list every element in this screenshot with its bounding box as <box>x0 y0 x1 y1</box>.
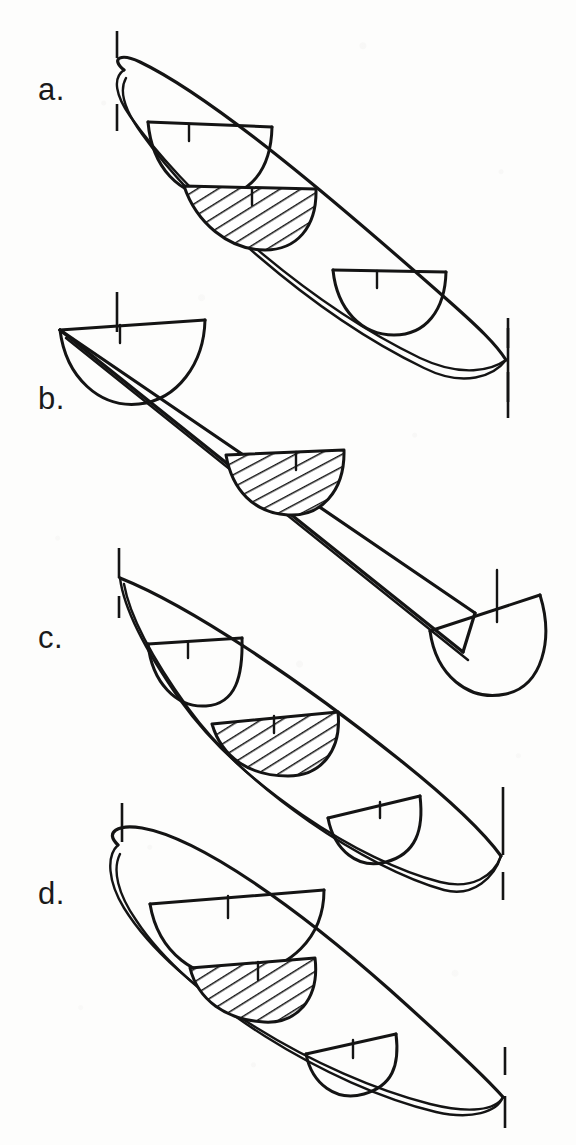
section-c-after-top <box>328 796 420 818</box>
panel-c-hull <box>119 548 503 900</box>
panel-label-c: c. <box>38 622 63 653</box>
cross-section-c-midship-hatched <box>212 712 338 776</box>
section-c-forward-top <box>148 638 242 644</box>
cross-section-b-stern <box>430 570 546 695</box>
cross-section-a-midship-hatched <box>184 186 316 250</box>
section-a-after-top <box>333 270 446 272</box>
cross-section-c-after <box>328 796 421 864</box>
panel-b-trough <box>60 292 546 695</box>
panel-label-d: d. <box>38 878 65 909</box>
section-d-after-top <box>306 1034 396 1054</box>
panel-label-b: b. <box>38 383 65 414</box>
section-a-forward-top <box>148 122 272 127</box>
hull-forms-diagram <box>0 0 576 1145</box>
cross-section-d-after <box>306 1034 397 1096</box>
panel-label-a: a. <box>38 74 65 105</box>
section-b-stern-arc <box>430 595 546 695</box>
section-a-forward-arc <box>148 122 272 196</box>
panel-a-hull <box>117 31 508 402</box>
cross-section-a-forward <box>148 122 272 196</box>
section-b-stern-chord <box>430 595 540 631</box>
section-d-forward-top <box>150 890 324 904</box>
panel-d-hull <box>110 803 505 1128</box>
hatch-b-fill <box>226 450 344 515</box>
cross-section-d-midship-hatched <box>190 958 316 1022</box>
trough-b-bow-rim <box>60 320 205 330</box>
cross-section-b-midship-hatched <box>226 450 344 515</box>
figure-page: a. b. c. d. <box>0 0 576 1145</box>
